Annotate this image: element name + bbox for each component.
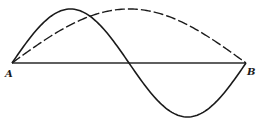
endpoint-label-b: B (246, 66, 255, 77)
string-modes-diagram: A B (0, 0, 257, 123)
fundamental-mode-dashed-curve (12, 9, 246, 63)
endpoint-label-a: A (4, 68, 13, 79)
